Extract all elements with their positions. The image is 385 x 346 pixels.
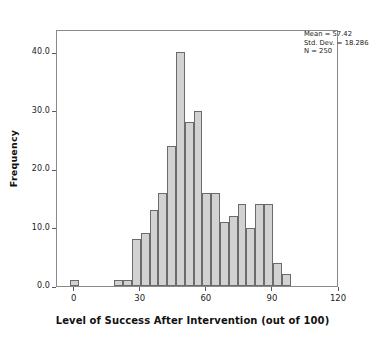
stats-mean: Mean = 57.42	[304, 30, 382, 39]
stats-std-dev: Std. Dev. = 18.286	[304, 39, 382, 48]
x-tick-label: 30	[126, 293, 154, 303]
x-tick-mark	[205, 287, 206, 291]
x-tick-mark	[338, 287, 339, 291]
y-tick-label: 10.0	[32, 223, 50, 233]
x-tick-mark	[139, 287, 140, 291]
x-tick-label: 0	[60, 293, 88, 303]
histogram-bar	[114, 280, 123, 286]
stats-annotation: Mean = 57.42 Std. Dev. = 18.286 N = 250	[304, 30, 382, 56]
x-axis-title: Level of Success After Intervention (out…	[0, 315, 385, 326]
histogram-bar	[211, 193, 220, 286]
x-tick-label: 90	[258, 293, 286, 303]
histogram-bar	[282, 274, 291, 286]
histogram-figure: Frequency 0.010.020.030.040.0 0306090120…	[0, 0, 385, 346]
histogram-bar	[194, 111, 203, 286]
x-tick-mark	[271, 287, 272, 291]
histogram-bar	[70, 280, 79, 286]
plot-frame	[56, 30, 338, 287]
histogram-bar	[123, 280, 132, 286]
histogram-bar	[255, 204, 264, 286]
histogram-bar	[132, 239, 141, 286]
x-tick-mark	[73, 287, 74, 291]
y-tick-label: 20.0	[32, 164, 50, 174]
plot-area	[57, 31, 337, 286]
y-axis: 0.010.020.030.040.0	[0, 30, 56, 287]
histogram-bar	[158, 193, 167, 286]
histogram-bar	[246, 228, 255, 286]
histogram-bar	[176, 52, 185, 286]
histogram-bar	[150, 210, 159, 286]
y-tick-label: 30.0	[32, 106, 50, 116]
histogram-bar	[185, 122, 194, 286]
histogram-bar	[229, 216, 238, 286]
histogram-bar	[220, 222, 229, 286]
x-axis: 0306090120	[56, 287, 338, 307]
histogram-bar	[202, 193, 211, 286]
histogram-bar	[238, 204, 247, 286]
histogram-bar	[167, 146, 176, 286]
histogram-bar	[264, 204, 273, 286]
stats-n: N = 250	[304, 47, 382, 56]
y-tick-label: 0.0	[37, 281, 50, 291]
x-tick-label: 60	[192, 293, 220, 303]
y-tick-label: 40.0	[32, 47, 50, 57]
histogram-bar	[141, 233, 150, 286]
histogram-bar	[273, 263, 282, 286]
x-tick-label: 120	[324, 293, 352, 303]
